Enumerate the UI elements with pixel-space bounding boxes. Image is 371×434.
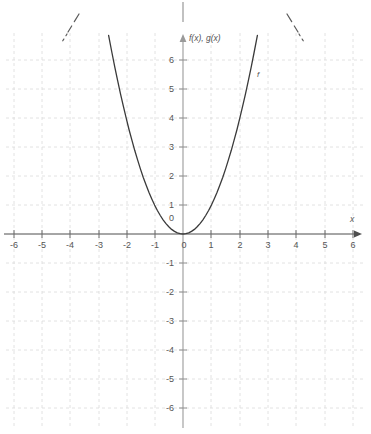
- y-tick-label--3: -3: [150, 316, 174, 326]
- y-tick-label--1: -1: [150, 258, 174, 268]
- x-tick-label--3: -3: [87, 240, 111, 250]
- y-tick-label--5: -5: [150, 374, 174, 384]
- x-tick-label--5: -5: [30, 240, 54, 250]
- x-tick-label-1: 1: [199, 240, 223, 250]
- y-tick-label-4: 4: [150, 113, 174, 123]
- y-tick-label-5: 5: [150, 84, 174, 94]
- y-axis: [180, 2, 187, 428]
- x-tick-label--4: -4: [58, 240, 82, 250]
- y-tick-label--4: -4: [150, 345, 174, 355]
- y-tick-label-0: 0: [150, 213, 174, 223]
- x-tick-label--1: -1: [143, 240, 167, 250]
- dashed-continuation-right: [287, 14, 298, 32]
- y-tick-label--2: -2: [150, 287, 174, 297]
- x-tick-label-5: 5: [313, 240, 337, 250]
- curve-label-f: f: [257, 70, 259, 79]
- x-tick-label-4: 4: [284, 240, 308, 250]
- x-tick-label-0: 0: [172, 240, 196, 250]
- y-axis-title: f(x), g(x): [189, 33, 221, 43]
- x-tick-label--6: -6: [2, 240, 26, 250]
- y-tick-label--6: -6: [150, 403, 174, 413]
- x-axis-title: x: [350, 214, 354, 224]
- x-tick-label-2: 2: [228, 240, 252, 250]
- x-tick-label-3: 3: [256, 240, 280, 250]
- y-tick-label-6: 6: [150, 55, 174, 65]
- dashed-continuation-left: [68, 14, 79, 32]
- y-tick-label-3: 3: [150, 142, 174, 152]
- chart-canvas: [0, 0, 371, 434]
- parabola-chart-figure: f(x), g(x) x f -6 -5 -4 -3 -2 -1 1 2 3 4…: [0, 0, 371, 434]
- x-tick-label-6: 6: [341, 240, 365, 250]
- y-tick-label-1: 1: [150, 200, 174, 210]
- y-tick-label-2: 2: [150, 171, 174, 181]
- x-tick-label--2: -2: [115, 240, 139, 250]
